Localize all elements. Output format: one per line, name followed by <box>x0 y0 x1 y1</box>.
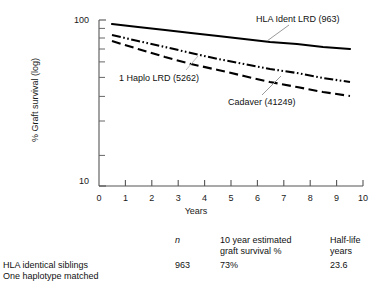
leader-line-haplo <box>186 56 198 70</box>
x-axis-label-2: 2 <box>144 193 160 203</box>
series-line-hla-ident-lrd <box>112 24 350 49</box>
table-row-halflife-hla-identical-siblings: 23.6 <box>330 260 348 270</box>
series-annotation-1-haplo-lrd: 1 Haplo LRD (5262) <box>119 73 199 83</box>
figure-root: 100 10 0 1 2 3 4 5 6 7 8 9 10 % Graft su… <box>0 0 390 291</box>
leader-line-hla-ident <box>267 25 289 41</box>
table-header-survival-line2: graft survival % <box>220 246 282 256</box>
table-header-n: n <box>175 235 180 245</box>
series-annotation-cadaver: Cadaver (41249) <box>228 97 296 107</box>
table-row-survival-hla-identical-siblings: 73% <box>220 260 238 270</box>
table-header-halflife-line2: years <box>330 246 352 256</box>
y-axis-title: % Graft survival (log) <box>30 35 40 165</box>
summary-table: n 10 year estimated graft survival % Hal… <box>0 233 390 291</box>
x-axis-label-3: 3 <box>170 193 186 203</box>
leader-line-cadaver <box>262 76 281 95</box>
x-axis-label-7: 7 <box>276 193 292 203</box>
y-axis-minor-ticks <box>99 28 105 155</box>
table-header-halflife-line1: Half-life <box>330 235 361 245</box>
x-axis-label-9: 9 <box>329 193 345 203</box>
x-axis-label-1: 1 <box>117 193 133 203</box>
y-axis-label-10: 10 <box>79 176 89 186</box>
series-annotation-hla-ident-lrd: HLA Ident LRD (963) <box>256 14 340 24</box>
y-axis-label-100: 100 <box>74 15 89 25</box>
y-axis-major-ticks <box>99 20 106 186</box>
x-axis-ticks <box>125 180 363 186</box>
x-axis-title: Years <box>185 206 208 216</box>
x-axis-label-8: 8 <box>302 193 318 203</box>
x-axis-label-4: 4 <box>197 193 213 203</box>
x-axis-label-10: 10 <box>355 193 371 203</box>
table-row-label-hla-identical-siblings: HLA identical siblings <box>3 260 88 270</box>
table-row-label-one-haplotype-matched: One haplotype matched <box>3 271 99 281</box>
table-row-n-hla-identical-siblings: 963 <box>175 260 190 270</box>
chart-plot-area <box>0 0 390 225</box>
x-axis-label-5: 5 <box>223 193 239 203</box>
x-axis-label-6: 6 <box>249 193 265 203</box>
x-axis-label-0: 0 <box>91 193 107 203</box>
series-line-cadaver <box>112 41 350 96</box>
table-header-survival-line1: 10 year estimated <box>220 235 292 245</box>
graft-survival-chart: 100 10 0 1 2 3 4 5 6 7 8 9 10 % Graft su… <box>0 0 390 225</box>
